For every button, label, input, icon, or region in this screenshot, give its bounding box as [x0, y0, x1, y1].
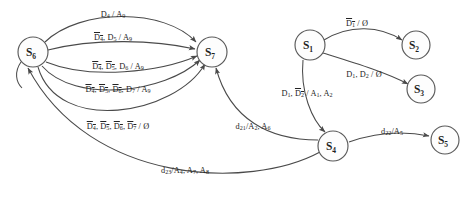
edge-label-s6-s7-e: D4, D5, D6, D7 / Ø — [87, 122, 150, 131]
edge-label-s1-s3: D1, D2 / Ø — [346, 70, 382, 79]
state-diagram-canvas: S6 S7 S1 S2 S3 S4 S5 — [0, 0, 476, 201]
edge-label-s1-s4: D1, D2 / A1, A2 — [281, 89, 332, 98]
edge-label-s1-s2: D1 / Ø — [346, 19, 368, 28]
node-s7[interactable]: S7 — [197, 37, 227, 67]
edge-label-s4-s6: d23/A4, A7, A8 — [161, 166, 209, 175]
edge-s1-s2 — [324, 29, 402, 40]
edge-label-s6-s7-d: D4, D5, D6, D7 / A9 — [85, 85, 150, 94]
edge-label-s6-s7-c: D4, D5, D6 / A9 — [92, 62, 144, 71]
node-s4[interactable]: S4 — [318, 131, 348, 161]
edge-s1-s3 — [323, 53, 408, 84]
node-s5[interactable]: S5 — [431, 126, 459, 154]
edge-label-s6-s7-a: D4 / A9 — [101, 10, 126, 19]
edge-label-s4-s7: d21/A2, A6 — [236, 122, 271, 131]
edge-s6-s7-b — [48, 42, 195, 50]
node-s1[interactable]: S1 — [295, 30, 325, 60]
node-s3[interactable]: S3 — [407, 75, 435, 103]
edge-label-s4-s5: d22/A5 — [381, 127, 403, 136]
edge-label-s6-s7-b: D4, D5 / A9 — [94, 33, 132, 42]
node-s2[interactable]: S2 — [402, 31, 430, 59]
edge-stub-s6-1 — [17, 62, 22, 88]
node-s6[interactable]: S6 — [18, 37, 48, 67]
edge-s4-s6 — [28, 68, 320, 173]
